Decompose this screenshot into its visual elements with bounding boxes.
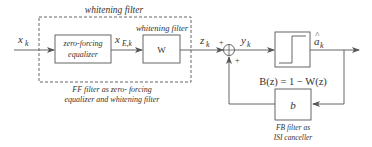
xe-signal-label: x E,k <box>114 33 132 48</box>
svg-text:k: k <box>247 40 251 49</box>
dfe-block-diagram: whitening filter x k zero-forcing equali… <box>0 0 372 147</box>
ff-caption-line-2: equalizer and whitening filter <box>65 95 161 104</box>
svg-text:x: x <box>114 33 120 45</box>
decision-device-block <box>275 32 310 67</box>
svg-text:E,k: E,k <box>121 39 132 48</box>
whitening-filter-title: whitening filter <box>136 23 189 33</box>
whitening-filter-symbol: W <box>157 45 166 55</box>
zero-forcing-label-2: equalizer <box>68 50 99 59</box>
input-signal-label: x k <box>17 33 29 48</box>
svg-text:k: k <box>206 40 210 49</box>
fb-caption-line-2: ISI canceller <box>273 133 313 142</box>
svg-text:k: k <box>320 41 324 50</box>
z-signal-label: z k <box>199 34 210 49</box>
y-signal-label: y k <box>240 34 251 49</box>
svg-text:k: k <box>25 39 29 48</box>
ff-caption-line-1: FF filter as zero- forcing <box>71 85 151 94</box>
zero-forcing-label-1: zero-forcing <box>63 39 103 48</box>
feedback-filter-symbol: b <box>290 99 296 111</box>
group-label: whitening filter <box>85 5 144 15</box>
svg-text:z: z <box>199 34 205 46</box>
a-hat-signal-label: ^ a k <box>314 30 324 50</box>
feedback-equation: B(z) = 1 − W(z) <box>259 76 327 88</box>
svg-text:x: x <box>17 33 23 45</box>
summer-plus-bottom: + <box>235 56 240 65</box>
fb-caption-line-1: FB filter as <box>275 123 310 132</box>
svg-text:y: y <box>240 34 246 46</box>
summer-plus-top: + <box>219 38 224 47</box>
summing-junction <box>224 45 235 56</box>
